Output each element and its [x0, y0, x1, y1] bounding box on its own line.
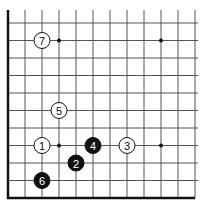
star-point — [159, 144, 163, 148]
move-number-5: 5 — [56, 105, 62, 117]
move-number-4: 4 — [90, 140, 96, 152]
move-number-3: 3 — [124, 140, 130, 152]
move-number-6: 6 — [39, 175, 45, 187]
star-point — [159, 39, 163, 43]
move-number-1: 1 — [39, 140, 45, 152]
star-point — [57, 144, 61, 148]
star-point — [57, 39, 61, 43]
move-number-7: 7 — [39, 35, 45, 47]
go-board: 1234567 — [0, 0, 206, 207]
move-number-2: 2 — [73, 158, 79, 170]
